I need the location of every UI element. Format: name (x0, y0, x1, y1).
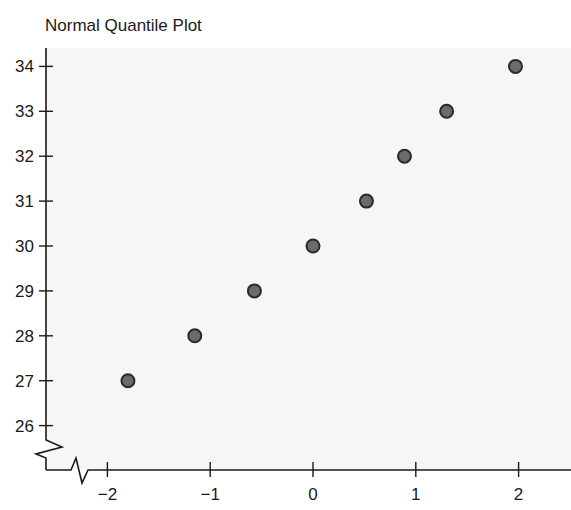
y-tick-label: 30 (15, 237, 34, 256)
x-tick-label: −2 (98, 485, 117, 504)
data-point (398, 150, 411, 163)
plot-area (47, 48, 571, 469)
x-tick-label: 0 (308, 485, 317, 504)
data-point (121, 374, 134, 387)
data-point (509, 60, 522, 73)
y-tick-label: 32 (15, 147, 34, 166)
x-tick-label: −1 (201, 485, 220, 504)
data-point (360, 195, 373, 208)
y-tick-label: 29 (15, 282, 34, 301)
y-tick-label: 33 (15, 102, 34, 121)
normal-quantile-plot: 262728293031323334 −2−1012 (0, 0, 571, 510)
data-point (307, 240, 320, 253)
y-tick-label: 26 (15, 417, 34, 436)
y-tick-label: 31 (15, 192, 34, 211)
data-point (440, 105, 453, 118)
x-tick-label: 1 (411, 485, 420, 504)
y-tick-label: 28 (15, 327, 34, 346)
y-tick-label: 34 (15, 57, 34, 76)
y-tick-label: 27 (15, 372, 34, 391)
data-point (188, 329, 201, 342)
data-point (248, 284, 261, 297)
x-tick-label: 2 (514, 485, 523, 504)
